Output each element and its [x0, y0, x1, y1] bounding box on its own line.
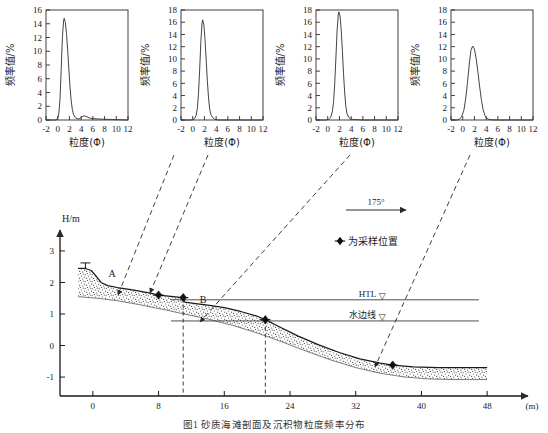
- x-tick-label: 10: [382, 124, 392, 134]
- y-tick-label: 16: [33, 5, 43, 15]
- x-tick-label: 12: [259, 124, 268, 134]
- x-tick-label: -2: [177, 124, 185, 134]
- x-tick-label: 12: [124, 124, 133, 134]
- y-tick-label: 2: [173, 103, 178, 113]
- profile-y-tick-label: 1: [50, 309, 55, 319]
- profile-x-tick-label: 24: [286, 401, 296, 411]
- y-tick-label: 12: [438, 42, 447, 52]
- y-tick-label: 6: [308, 79, 313, 89]
- histogram-leader-line: [150, 155, 208, 293]
- y-axis-label: 频率值/%: [4, 44, 16, 87]
- x-tick-label: 8: [237, 124, 242, 134]
- grain-size-chart-3: 024681012141618-2024681012粒度(Φ)频率值/%: [270, 0, 405, 155]
- grain-size-chart-4: 024681012141618-2024681012粒度(Φ)频率值/%: [405, 0, 540, 155]
- profile-x-tick-label: 16: [220, 401, 230, 411]
- x-tick-label: 8: [102, 124, 107, 134]
- y-tick-label: 10: [168, 54, 178, 64]
- y-axis-label: 频率值/%: [139, 44, 151, 87]
- x-tick-label: 2: [472, 124, 477, 134]
- x-axis-label: 粒度(Φ): [69, 136, 105, 148]
- x-axis-label: 粒度(Φ): [474, 136, 510, 148]
- y-tick-label: 14: [33, 19, 43, 29]
- y-tick-label: 12: [168, 42, 177, 52]
- x-tick-label: 2: [337, 124, 342, 134]
- y-tick-label: 6: [443, 79, 448, 89]
- profile-x-tick-label: 8: [156, 401, 161, 411]
- y-tick-label: 14: [168, 30, 178, 40]
- profile-y-tick-label: 3: [50, 246, 55, 256]
- profile-x-tick-label: 48: [483, 401, 493, 411]
- waterline-label: 水边线: [349, 309, 376, 320]
- x-tick-label: 4: [79, 124, 84, 134]
- x-tick-label: 2: [67, 124, 72, 134]
- x-tick-label: 4: [484, 124, 489, 134]
- x-tick-label: 2: [202, 124, 207, 134]
- x-tick-label: 6: [361, 124, 366, 134]
- x-tick-label: 6: [91, 124, 96, 134]
- x-tick-label: 8: [507, 124, 512, 134]
- y-tick-label: 12: [303, 42, 312, 52]
- x-axis-unit: (m): [526, 401, 539, 411]
- profile-y-tick-label: 0: [50, 341, 55, 351]
- x-tick-label: 0: [55, 124, 60, 134]
- y-tick-label: 18: [303, 5, 313, 15]
- sample-point-marker[interactable]: [389, 361, 396, 369]
- profile-x-tick-label: 32: [351, 401, 360, 411]
- y-tick-label: 2: [308, 103, 313, 113]
- chart-frame: [316, 10, 398, 120]
- htl-label: HTL: [359, 289, 377, 299]
- profile-x-tick-label: 0: [91, 401, 96, 411]
- y-tick-label: 4: [308, 91, 313, 101]
- x-tick-label: 12: [394, 124, 403, 134]
- point-label-b: B: [200, 294, 207, 305]
- x-tick-label: 10: [517, 124, 527, 134]
- chart-frame: [451, 10, 533, 120]
- x-tick-label: 10: [247, 124, 257, 134]
- profile-y-tick-label: -1: [47, 372, 55, 382]
- y-tick-label: 2: [443, 103, 448, 113]
- x-tick-label: -2: [447, 124, 455, 134]
- y-tick-label: 8: [173, 66, 178, 76]
- y-tick-label: 18: [168, 5, 178, 15]
- x-axis-label: 粒度(Φ): [204, 136, 240, 148]
- grain-size-chart-1: 0246810121416-2024681012粒度(Φ)频率值/%: [0, 0, 135, 155]
- y-tick-label: 4: [38, 88, 43, 98]
- y-tick-label: 8: [443, 66, 448, 76]
- profile-x-tick-label: 40: [417, 401, 427, 411]
- x-tick-label: 0: [325, 124, 330, 134]
- x-tick-label: 6: [226, 124, 231, 134]
- x-tick-label: 12: [529, 124, 538, 134]
- sample-point-marker[interactable]: [180, 293, 187, 301]
- x-tick-label: 0: [460, 124, 465, 134]
- waterline-symbol: ▽: [379, 312, 386, 322]
- chart-frame: [181, 10, 263, 120]
- grain-size-chart-2: 024681012141618-2024681012粒度(Φ)频率值/%: [135, 0, 270, 155]
- histogram-leader-line: [375, 155, 470, 367]
- direction-angle-label: 175°: [367, 197, 385, 207]
- y-tick-label: 8: [308, 66, 313, 76]
- y-axis-label: 频率值/%: [409, 44, 421, 87]
- chart-frame: [46, 10, 128, 120]
- sand-body: [78, 268, 487, 379]
- sample-point-marker[interactable]: [155, 291, 162, 299]
- histogram-leader-line: [118, 155, 174, 295]
- y-tick-label: 4: [173, 91, 178, 101]
- y-tick-label: 6: [38, 74, 43, 84]
- x-tick-label: 6: [496, 124, 501, 134]
- y-axis-label: 频率值/%: [274, 44, 286, 87]
- y-axis-label: H/m: [62, 213, 80, 224]
- x-tick-label: -2: [42, 124, 50, 134]
- y-tick-label: 18: [438, 5, 448, 15]
- y-tick-label: 10: [438, 54, 448, 64]
- profile-y-tick-label: 2: [50, 278, 55, 288]
- histogram-leader-line: [200, 155, 350, 322]
- y-tick-label: 8: [38, 60, 43, 70]
- y-tick-label: 14: [303, 30, 313, 40]
- y-tick-label: 12: [33, 33, 42, 43]
- y-tick-label: 16: [438, 17, 448, 27]
- figure-caption: 图1 砂质海滩剖面及沉积物粒度频率分布: [0, 417, 548, 431]
- sample-point-marker[interactable]: [262, 315, 269, 323]
- y-tick-label: 14: [438, 30, 448, 40]
- x-axis-label: 粒度(Φ): [339, 136, 375, 148]
- y-tick-label: 2: [38, 101, 43, 111]
